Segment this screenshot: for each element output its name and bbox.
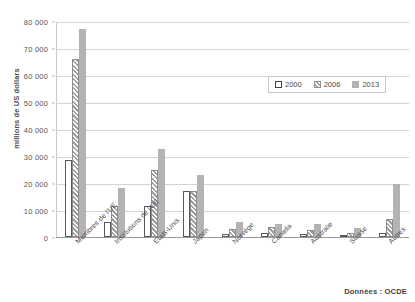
legend-swatch-2013	[352, 81, 359, 88]
legend-item-2013[interactable]: 2013	[352, 80, 379, 89]
y-axis-tick	[52, 22, 55, 23]
legend-label-2000: 2000	[285, 80, 302, 89]
y-axis-tick-label: 0	[44, 234, 48, 243]
legend-label-2013: 2013	[362, 80, 379, 89]
legend-item-2006[interactable]: 2006	[314, 80, 341, 89]
bar-group	[331, 22, 370, 237]
chart-title-cropped	[0, 0, 415, 9]
bar-group	[56, 22, 95, 237]
y-axis-tick	[52, 103, 55, 104]
y-axis-tick	[52, 157, 55, 158]
bar[interactable]	[158, 149, 165, 237]
bar-group	[252, 22, 291, 237]
bar-group	[370, 22, 409, 237]
y-axis-tick-label: 50 000	[24, 99, 48, 108]
bar[interactable]	[104, 222, 111, 237]
bar[interactable]	[300, 234, 307, 237]
bar[interactable]	[72, 59, 79, 237]
bar[interactable]	[190, 191, 197, 237]
legend-swatch-2000	[275, 81, 282, 88]
bar-group	[174, 22, 213, 237]
y-axis-tick	[52, 76, 55, 77]
y-axis-tick-label: 30 000	[24, 153, 48, 162]
chart-container: millions de US dollars 010 00020 00030 0…	[0, 0, 415, 302]
bar[interactable]	[222, 234, 229, 238]
y-axis-tick	[52, 130, 55, 131]
y-axis-tick-label: 60 000	[24, 72, 48, 81]
y-axis-tick	[52, 49, 55, 50]
bar[interactable]	[65, 160, 72, 237]
legend-item-2000[interactable]: 2000	[275, 80, 302, 89]
bar[interactable]	[261, 233, 268, 237]
y-axis-tick-labels: 010 00020 00030 00040 00050 00060 00070 …	[0, 0, 52, 302]
bar-group	[291, 22, 330, 237]
chart-legend: 2000 2006 2013	[268, 76, 386, 93]
bar-group	[213, 22, 252, 237]
source-note: Données : OCDE	[344, 287, 407, 296]
y-axis-tick-label: 70 000	[24, 45, 48, 54]
bar[interactable]	[79, 29, 86, 237]
legend-swatch-2006	[314, 81, 321, 88]
legend-label-2006: 2006	[324, 80, 341, 89]
y-axis-tick	[52, 238, 55, 239]
bar[interactable]	[340, 235, 347, 237]
bar[interactable]	[379, 233, 386, 237]
y-axis-tick-label: 80 000	[24, 18, 48, 27]
y-axis-tick	[52, 211, 55, 212]
y-axis-tick	[52, 184, 55, 185]
y-axis-tick-label: 10 000	[24, 207, 48, 216]
y-axis-tick-label: 40 000	[24, 126, 48, 135]
y-axis-tick-label: 20 000	[24, 180, 48, 189]
bar[interactable]	[183, 191, 190, 237]
